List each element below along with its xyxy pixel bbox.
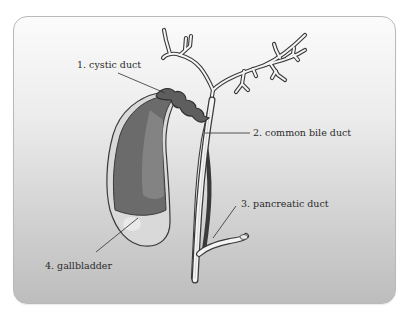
label-gallbladder: 4. gallbladder — [45, 260, 112, 271]
label-pancreatic-duct: 3. pancreatic duct — [241, 198, 329, 209]
label-common-bile-duct: 2. common bile duct — [253, 127, 351, 138]
leader-pancreatic-duct — [213, 206, 236, 238]
biliary-diagram: 1. cystic duct 2. common bile duct 3. pa… — [0, 0, 407, 313]
label-cystic-duct: 1. cystic duct — [77, 59, 141, 70]
leader-cystic-duct — [118, 73, 165, 93]
gallbladder — [107, 93, 178, 246]
